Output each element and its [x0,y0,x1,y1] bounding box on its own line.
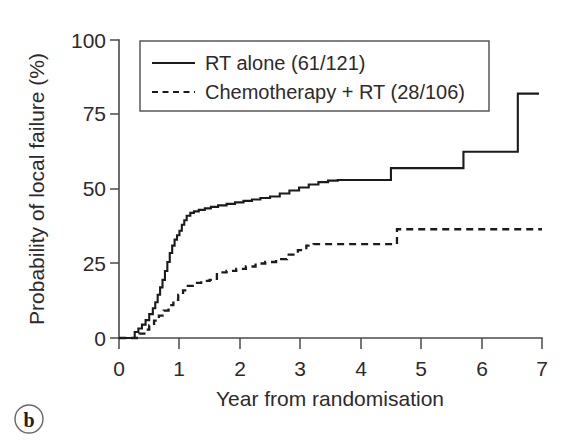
figure-panel: Probability of local failure (%) 100 75 … [0,0,575,446]
y-tick-label: 100 [71,29,106,52]
x-tick-label: 4 [355,357,367,380]
legend-label-rt-alone: RT alone (61/121) [205,52,365,74]
series-rt-alone-line [119,94,539,338]
y-tick-label: 0 [94,327,106,350]
x-tick-label: 6 [476,357,488,380]
panel-label: b [15,405,43,433]
legend-label-chemo-rt: Chemotherapy + RT (28/106) [205,81,465,103]
x-axis [119,338,542,349]
x-tick-label: 2 [234,357,246,380]
y-axis-title: Probability of local failure (%) [25,53,48,325]
y-tick-label: 25 [83,252,106,275]
y-tick-label: 50 [83,177,106,200]
x-axis-title: Year from randomisation [216,387,444,410]
legend: RT alone (61/121) Chemotherapy + RT (28/… [140,41,489,111]
x-tick-labels: 0 1 2 3 4 5 6 7 [113,357,548,380]
x-tick-label: 0 [113,357,125,380]
panel-label-letter: b [23,409,34,431]
series-chemo-rt-line [119,229,542,338]
x-tick-label: 5 [415,357,427,380]
y-tick-labels: 100 75 50 25 0 [71,29,106,350]
x-tick-label: 3 [294,357,306,380]
y-tick-label: 75 [83,102,106,125]
x-tick-label: 1 [173,357,185,380]
kaplan-meier-chart: Probability of local failure (%) 100 75 … [0,0,575,446]
y-axis [110,40,119,338]
x-tick-label: 7 [536,357,548,380]
